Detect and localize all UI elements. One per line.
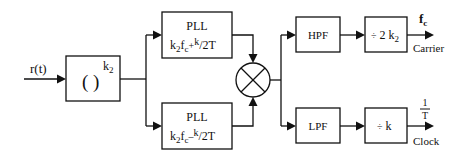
carrier-symbol: fc: [419, 11, 427, 28]
divide-2k2-block: ÷ 2 k2: [365, 17, 407, 52]
power-block: ( ) k2: [66, 56, 120, 101]
arrow-icon: [153, 122, 162, 131]
clock-output-arrow-icon: [425, 122, 434, 131]
divide-k-block: ÷ k: [365, 108, 407, 143]
multiplier: [236, 63, 270, 97]
arrow-icon: [249, 54, 258, 63]
lpf-label: LPF: [309, 120, 328, 132]
fraction-denominator: T: [422, 110, 428, 121]
pll-top-block: PLL k2fc+k/2T: [162, 12, 232, 58]
hpf-block: HPF: [296, 17, 340, 52]
input-label: r(t): [30, 61, 47, 76]
pll-bottom-block: PLL k2fc–k/2T: [162, 103, 232, 149]
hpf-label: HPF: [308, 29, 328, 41]
divide-k-label: ÷ k: [377, 119, 392, 133]
arrow-icon: [249, 97, 258, 106]
arrow-icon: [356, 122, 365, 131]
fraction-numerator: 1: [423, 97, 428, 108]
clock-fraction: 1 T: [420, 97, 430, 121]
arrow-icon: [287, 122, 296, 131]
carrier-output-arrow-icon: [425, 31, 434, 40]
split-wires: [120, 31, 162, 131]
carrier-clock-recovery-diagram: r(t) ( ) k2 PLL k2fc+k/2T PLL k2fc–k/2T: [0, 0, 464, 160]
carrier-label: Carrier: [413, 42, 444, 54]
lpf-block: LPF: [296, 108, 340, 143]
arrow-icon: [356, 31, 365, 40]
pll-top-title: PLL: [186, 19, 207, 33]
input-arrow-icon: [57, 75, 66, 84]
filter-split-wires: [270, 31, 296, 131]
arrow-icon: [153, 31, 162, 40]
input-signal: r(t): [24, 61, 66, 84]
power-block-parens: ( ): [82, 71, 99, 93]
pll-bottom-title: PLL: [186, 110, 207, 124]
arrow-icon: [287, 31, 296, 40]
clock-label: Clock: [413, 135, 440, 147]
